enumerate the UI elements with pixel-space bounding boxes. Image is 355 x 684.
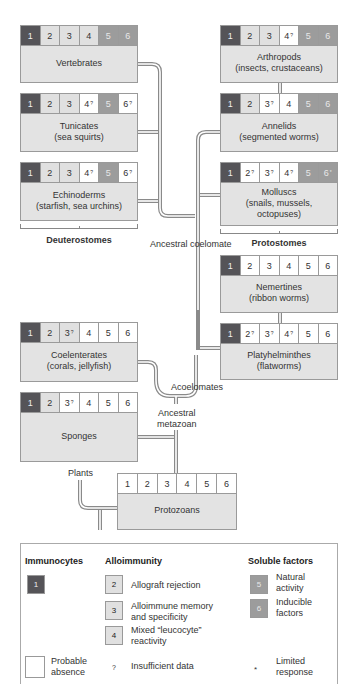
question-mark-icon: ? (129, 169, 132, 175)
taxon-name: Molluscs (261, 187, 296, 198)
question-mark-icon: ? (251, 330, 254, 336)
immune-feature-cells: 1234?56 (221, 26, 337, 46)
feature-cell-2: 2 (241, 256, 261, 275)
feature-number: 4 (286, 261, 291, 271)
feature-number: 5 (106, 328, 111, 338)
immune-feature-cells: 1234?56? (21, 163, 137, 183)
deuterostomes-label: Deuterostomes (20, 235, 138, 246)
feature-cell-2: 2 (41, 163, 61, 182)
feature-cell-6: 6 (319, 256, 338, 275)
feature-cell-6: 6 (319, 94, 338, 113)
feature-number: 6 (224, 479, 229, 489)
legend-text: factors (276, 608, 312, 619)
legend-insufficient-data: Insufficient data (131, 661, 194, 672)
immune-feature-cells: 12?3?4?56* (221, 163, 337, 183)
legend-swatch-probable-absence (25, 656, 45, 678)
taxon-label: Echinoderms(starfish, sea urchins) (21, 183, 137, 218)
taxon-examples: (starfish, sea urchins) (36, 201, 122, 212)
immune-feature-cells: 123456 (21, 26, 137, 46)
legend-text: absence (51, 667, 87, 678)
feature-cell-4: 4? (80, 163, 100, 182)
feature-number: 6 (123, 99, 128, 109)
feature-cell-2: 2 (241, 26, 261, 45)
feature-number: 3 (265, 99, 270, 109)
ancestral-metazoan-label: Ancestral metazoan (157, 408, 197, 430)
feature-cell-4: 4? (280, 163, 300, 182)
taxon-label: Annelids(segmented worms) (221, 114, 337, 149)
taxon-label: Coelenterates(corals, jellyfish) (21, 343, 137, 379)
immune-feature-cells: 123456 (118, 474, 236, 494)
feature-cell-6: 6 (119, 393, 138, 412)
feature-number: 3 (65, 398, 70, 408)
taxon-name: Nemertines (256, 282, 302, 293)
feature-number: 1 (228, 99, 233, 109)
taxon-label: Tunicates(sea squirts) (21, 114, 137, 149)
feature-number: 4 (84, 99, 89, 109)
feature-number: 3 (65, 328, 70, 338)
feature-number: 4 (84, 168, 89, 178)
acoelomates-label: Acoelomates (171, 382, 223, 393)
question-mark-icon: ? (271, 330, 274, 336)
ancestral-metazoan-line1: Ancestral (157, 408, 197, 419)
feature-cell-1: 1 (21, 323, 41, 342)
legend-swatch-5: 5 (250, 575, 268, 594)
feature-number: 6 (123, 168, 128, 178)
feature-cell-5: 5 (197, 474, 217, 493)
feature-number: 2 (145, 479, 150, 489)
legend-text: reactivity (131, 636, 202, 647)
feature-number: 5 (306, 168, 311, 178)
legend-immunocytes-heading: Immunocytes (25, 556, 83, 566)
feature-number: 1 (228, 261, 233, 271)
feature-cell-3: 3? (260, 163, 280, 182)
ancestral-metazoan-line2: metazoan (157, 419, 197, 430)
taxon-examples: (ribbon worms) (249, 293, 309, 304)
feature-cell-4: 4 (80, 323, 100, 342)
legend-swatch-3: 3 (105, 601, 123, 620)
asterisk-icon: * (330, 169, 332, 175)
question-mark-icon: ? (271, 169, 274, 175)
feature-cell-1: 1 (221, 324, 241, 343)
question-mark-icon: ? (251, 169, 254, 175)
feature-number: 3 (267, 261, 272, 271)
legend-alloimmune-memory: Alloimmune memory and specificity (131, 601, 213, 623)
legend-swatch-2: 2 (105, 575, 123, 594)
feature-cell-3: 3 (60, 94, 80, 113)
feature-number: 2 (247, 261, 252, 271)
immune-feature-cells: 12?3?4?56 (221, 324, 337, 344)
feature-cell-5: 5 (299, 324, 319, 343)
taxon-label: Protozoans (118, 494, 236, 527)
taxon-molluscs: 12?3?4?56*Molluscs(snails, mussels, octo… (220, 162, 338, 226)
taxon-examples: (flatworms) (257, 361, 302, 372)
feature-number: 2 (245, 168, 250, 178)
feature-cell-2: 2 (138, 474, 158, 493)
taxon-label: Vertebrates (21, 46, 137, 80)
feature-number: 2 (247, 31, 252, 41)
legend-text: Allograft rejection (131, 580, 201, 591)
feature-cell-2: 2? (241, 324, 261, 343)
taxon-name: Annelids (262, 121, 297, 132)
feature-number: 6 (325, 261, 330, 271)
taxon-examples: (snails, mussels, octopuses) (239, 198, 319, 220)
feature-number: 3 (67, 99, 72, 109)
legend-text: activity (276, 583, 305, 594)
feature-cell-6: 6 (119, 323, 138, 342)
taxon-name: Echinoderms (53, 190, 106, 201)
feature-number: 4 (184, 479, 189, 489)
feature-cell-6: 6 (217, 474, 236, 493)
feature-cell-4: 4? (280, 26, 300, 45)
taxon-name: Vertebrates (56, 58, 102, 69)
taxon-vertebrates: 123456Vertebrates (20, 25, 138, 83)
feature-number: 5 (106, 398, 111, 408)
feature-number: 6 (325, 329, 330, 339)
taxon-tunicates: 1234?56?Tunicates(sea squirts) (20, 93, 138, 152)
feature-number: 4 (286, 99, 291, 109)
feature-number: 4 (284, 329, 289, 339)
legend-text: Natural (276, 572, 305, 583)
immune-feature-cells: 123456 (221, 256, 337, 276)
legend-swatch-1: 1 (27, 575, 45, 594)
taxon-name: Tunicates (60, 121, 99, 132)
taxon-name: Sponges (61, 431, 97, 442)
feature-cell-5: 5 (99, 393, 119, 412)
feature-number: 4 (284, 168, 289, 178)
feature-number: 1 (28, 168, 33, 178)
